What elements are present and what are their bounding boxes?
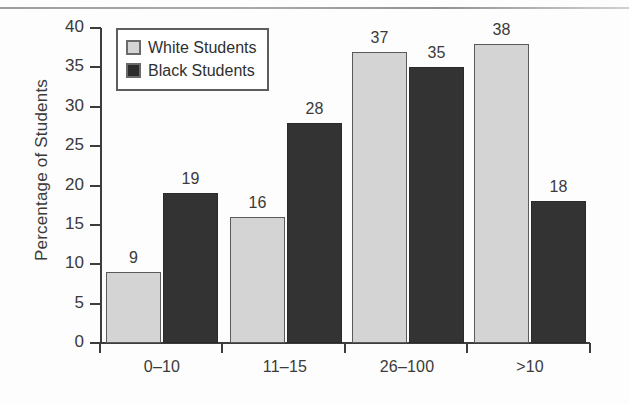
bar-white-0: [106, 272, 161, 343]
x-tick-3: [466, 343, 468, 353]
x-tick-4: [589, 343, 591, 353]
legend-item-black-students: Black Students: [126, 59, 257, 82]
bar-white-3: [474, 44, 529, 343]
x-tick-0: [99, 343, 101, 353]
scan-artifact-line: [0, 7, 629, 9]
bar-black-0: [163, 193, 218, 343]
y-tick-35: [90, 66, 101, 68]
bar-black-1: [287, 123, 342, 344]
y-tick-label-30: 30: [38, 96, 84, 116]
y-tick-5: [90, 303, 101, 305]
legend-item-white-students: White Students: [126, 36, 257, 59]
black-swatch-icon: [126, 63, 141, 78]
y-tick-30: [90, 106, 101, 108]
y-tick-label-40: 40: [38, 17, 84, 37]
bar-black-3: [531, 201, 586, 343]
y-tick-10: [90, 263, 101, 265]
bar-chart-figure: Percentage of Students 0510152025303540 …: [0, 0, 629, 404]
legend-label-white: White Students: [148, 39, 257, 57]
bar-value-label-white-0: 9: [104, 249, 164, 267]
chart-legend: White Students Black Students: [116, 28, 269, 91]
bar-value-label-white-2: 37: [350, 29, 410, 47]
x-category-label-3: >10: [470, 358, 590, 376]
bar-value-label-black-1: 28: [285, 100, 345, 118]
y-tick-40: [90, 27, 101, 29]
legend-label-black: Black Students: [148, 62, 255, 80]
y-tick-label-5: 5: [38, 293, 84, 313]
y-tick-label-0: 0: [38, 332, 84, 352]
x-category-label-1: 11–15: [225, 358, 345, 376]
y-tick-label-20: 20: [38, 175, 84, 195]
bar-value-label-white-1: 16: [228, 194, 288, 212]
bar-value-label-black-2: 35: [407, 44, 467, 62]
bar-white-1: [230, 217, 285, 343]
y-tick-label-15: 15: [38, 214, 84, 234]
x-category-label-2: 26–100: [347, 358, 467, 376]
x-tick-2: [344, 343, 346, 353]
x-tick-1: [221, 343, 223, 353]
y-tick-25: [90, 145, 101, 147]
y-tick-label-35: 35: [38, 56, 84, 76]
bar-value-label-black-0: 19: [161, 170, 221, 188]
bar-value-label-black-3: 18: [529, 178, 589, 196]
y-tick-label-25: 25: [38, 135, 84, 155]
bar-value-label-white-3: 38: [472, 21, 532, 39]
white-swatch-icon: [126, 40, 141, 55]
bar-white-2: [352, 52, 407, 343]
bar-black-2: [409, 67, 464, 343]
y-tick-20: [90, 185, 101, 187]
x-category-label-0: 0–10: [102, 358, 222, 376]
y-tick-label-10: 10: [38, 253, 84, 273]
y-tick-15: [90, 224, 101, 226]
